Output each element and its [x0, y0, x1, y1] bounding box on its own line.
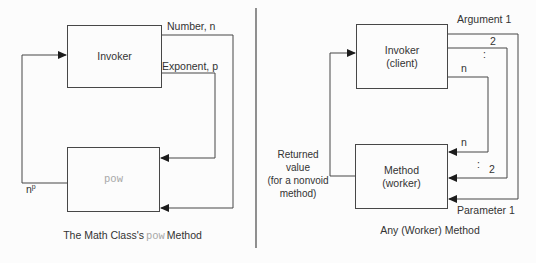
caption-left-prefix: The Math Class's [63, 229, 144, 241]
caption-right: Any (Worker) Method [349, 224, 511, 236]
parameter-1-label: Parameter 1 [457, 205, 515, 216]
returned-value-note-line2: value [256, 161, 340, 174]
wire-argument-n [448, 77, 488, 152]
figure-canvas: Invoker pow Number, n Exponent, p np The… [0, 0, 536, 263]
invoker-box-left-label: Invoker [97, 50, 131, 63]
argument-dots-label: : [483, 49, 486, 60]
wire-exponent-p [161, 73, 215, 158]
method-worker-line2: (worker) [382, 177, 421, 190]
parameter-dots-label: : [477, 159, 480, 170]
n-to-the-p-label: np [26, 184, 36, 195]
returned-value-note-line3: (for a nonvoid [256, 174, 340, 187]
invoker-box-left: Invoker [67, 25, 162, 88]
pow-box: pow [67, 147, 160, 212]
n-to-the-p-exponent: p [32, 183, 36, 190]
number-n-label: Number, n [167, 21, 215, 32]
wire-return-np [22, 55, 67, 183]
returned-value-note-line1: Returned [256, 148, 340, 161]
caption-left-suffix: Method [167, 229, 202, 241]
returned-value-note: Returned value (for a nonvoid method) [256, 148, 340, 200]
invoker-client-line1: Invoker [385, 44, 419, 57]
parameter-n-label: n [461, 137, 467, 148]
pow-box-label: pow [104, 173, 123, 186]
argument-2-label: 2 [490, 36, 496, 47]
method-worker-box: Method (worker) [355, 144, 448, 209]
exponent-p-label: Exponent, p [162, 61, 218, 72]
returned-value-note-line4: method) [256, 187, 340, 200]
invoker-client-box: Invoker (client) [356, 24, 448, 89]
argument-1-label: Argument 1 [457, 14, 511, 25]
invoker-client-line2: (client) [386, 57, 418, 70]
caption-left: The Math Class'spowMethod [10, 229, 255, 242]
method-worker-line1: Method [384, 164, 419, 177]
argument-n-label: n [461, 63, 467, 74]
caption-left-code: pow [146, 230, 165, 242]
parameter-2-label: 2 [489, 164, 495, 175]
